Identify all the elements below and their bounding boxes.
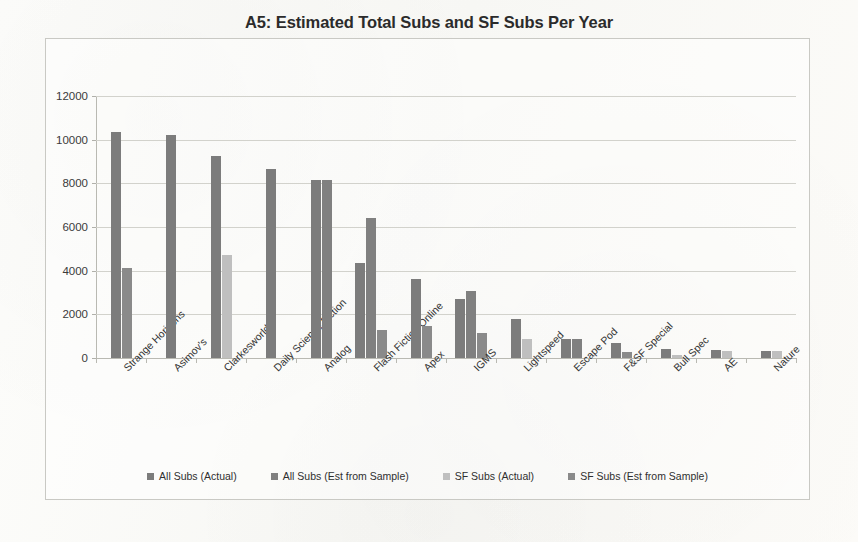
- bar-group[interactable]: [246, 96, 296, 358]
- bar[interactable]: [711, 350, 721, 358]
- y-axis-label: 4000: [62, 265, 88, 277]
- x-axis-tick: [446, 358, 447, 363]
- bar[interactable]: [355, 263, 365, 358]
- x-axis-tick: [696, 358, 697, 363]
- y-axis-label: 10000: [56, 134, 88, 146]
- legend-item[interactable]: All Subs (Actual): [147, 470, 237, 482]
- bar[interactable]: [266, 169, 276, 358]
- bar[interactable]: [222, 255, 232, 358]
- bar-group[interactable]: [446, 96, 496, 358]
- bar-group[interactable]: [296, 96, 346, 358]
- bar[interactable]: [366, 218, 376, 358]
- legend-label: All Subs (Actual): [159, 470, 237, 482]
- legend-item[interactable]: SF Subs (Est from Sample): [568, 470, 708, 482]
- bar-group[interactable]: [746, 96, 796, 358]
- bar-group[interactable]: [646, 96, 696, 358]
- legend-swatch-icon: [147, 473, 154, 480]
- x-axis-tick: [746, 358, 747, 363]
- bar[interactable]: [561, 339, 571, 358]
- bar[interactable]: [661, 349, 671, 358]
- bar-group[interactable]: [396, 96, 446, 358]
- x-axis-tick: [396, 358, 397, 363]
- bar[interactable]: [311, 180, 321, 358]
- x-axis-tick: [646, 358, 647, 363]
- bar[interactable]: [111, 132, 121, 358]
- bar[interactable]: [511, 319, 521, 358]
- x-axis-tick: [146, 358, 147, 363]
- x-axis-tick: [496, 358, 497, 363]
- bar[interactable]: [422, 326, 432, 358]
- x-axis-tick: [796, 358, 797, 363]
- legend-label: SF Subs (Est from Sample): [580, 470, 708, 482]
- bar-group[interactable]: [146, 96, 196, 358]
- chart-legend: All Subs (Actual)All Subs (Est from Samp…: [45, 470, 810, 482]
- bar[interactable]: [466, 291, 476, 358]
- plot-area: 120001000080006000400020000Strange Horiz…: [96, 96, 796, 358]
- y-axis-label: 6000: [62, 221, 88, 233]
- x-axis-tick: [346, 358, 347, 363]
- legend-swatch-icon: [271, 473, 278, 480]
- bar[interactable]: [411, 279, 421, 358]
- chart-title: A5: Estimated Total Subs and SF Subs Per…: [0, 13, 858, 32]
- bar[interactable]: [166, 135, 176, 358]
- x-axis-tick: [546, 358, 547, 363]
- bar-group[interactable]: [196, 96, 246, 358]
- bar-group[interactable]: [596, 96, 646, 358]
- bar-group[interactable]: [496, 96, 546, 358]
- bar[interactable]: [122, 268, 132, 358]
- y-axis-label: 0: [82, 352, 88, 364]
- bar[interactable]: [322, 180, 332, 358]
- x-axis-tick: [596, 358, 597, 363]
- legend-swatch-icon: [568, 473, 575, 480]
- legend-item[interactable]: SF Subs (Actual): [443, 470, 534, 482]
- y-axis-label: 8000: [62, 177, 88, 189]
- bar-group[interactable]: [346, 96, 396, 358]
- bar-group[interactable]: [546, 96, 596, 358]
- bar-group[interactable]: [96, 96, 146, 358]
- plot-inner: 120001000080006000400020000Strange Horiz…: [96, 96, 796, 358]
- legend-item[interactable]: All Subs (Est from Sample): [271, 470, 409, 482]
- bar-group[interactable]: [696, 96, 746, 358]
- x-axis-tick: [96, 358, 97, 363]
- legend-swatch-icon: [443, 473, 450, 480]
- x-axis-tick: [296, 358, 297, 363]
- x-axis-tick: [196, 358, 197, 363]
- x-axis-tick: [246, 358, 247, 363]
- legend-label: SF Subs (Actual): [455, 470, 534, 482]
- bar[interactable]: [611, 343, 621, 358]
- bar[interactable]: [455, 299, 465, 358]
- y-axis-label: 12000: [56, 90, 88, 102]
- legend-label: All Subs (Est from Sample): [283, 470, 409, 482]
- bar[interactable]: [761, 351, 771, 358]
- y-axis-label: 2000: [62, 308, 88, 320]
- bar[interactable]: [211, 156, 221, 358]
